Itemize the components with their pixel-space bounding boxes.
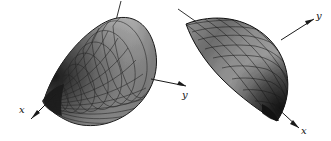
left-y-axis-label: y [181,89,188,100]
left-figure-group: x y [19,1,188,127]
right-y-axis [281,19,314,40]
paraboloid-diagram-svg: x y [0,0,331,141]
right-y-axis-label: y [315,10,322,21]
left-x-axis-label: x [19,104,25,115]
figure-canvas: x y [0,0,331,141]
left-y-axis [151,79,186,86]
right-figure-group: y x [178,9,322,136]
right-x-axis-label: x [301,125,307,136]
right-paraboloid-surface [186,18,288,121]
